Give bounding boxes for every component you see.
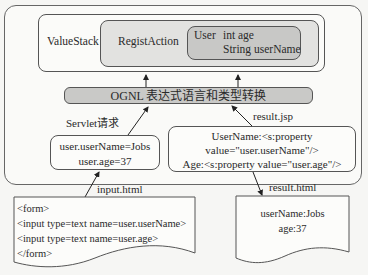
result-doc-line-1: userName:Jobs: [236, 206, 349, 221]
input-doc-line-3: <input type=text name=user.age>: [17, 231, 186, 246]
arrow-input-to-request: [85, 172, 99, 197]
input-doc-line-2: <input type=text name=user.userName>: [17, 216, 186, 231]
input-doc-line-4: </form>: [17, 246, 186, 261]
input-doc-line-1: <form>: [17, 201, 186, 216]
result-doc-content: userName:Jobs age:37: [236, 206, 349, 236]
arrow-resultjsp-to-resulthtml: [253, 172, 262, 195]
result-doc-line-2: age:37: [236, 221, 349, 236]
arrow-resultjsp-to-ognl: [232, 106, 252, 126]
arrow-request-to-ognl: [128, 107, 148, 135]
input-doc-content: <form> <input type=text name=user.userNa…: [17, 201, 186, 261]
